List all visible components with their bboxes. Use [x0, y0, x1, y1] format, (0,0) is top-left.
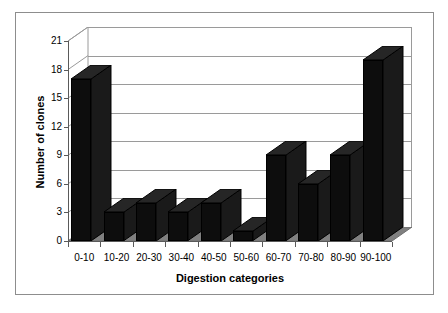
x-tick-mark-6	[295, 242, 296, 247]
plot-area: 036912151821 0-1010-2020-3030-4040-5050-…	[0, 0, 448, 313]
bar-0-10	[71, 79, 91, 241]
y-tick-label-0: 0	[40, 236, 62, 246]
x-tick-mark-4	[230, 242, 231, 247]
x-tick-mark-2	[165, 242, 166, 247]
x-tick-label-10-20: 10-20	[100, 252, 132, 263]
x-axis-title: Digestion categories	[68, 272, 392, 284]
y-tick-mark-15	[64, 98, 69, 99]
x-tick-mark-1	[133, 242, 134, 247]
y-axis-title: Number of clones	[34, 62, 46, 222]
x-tick-label-40-50: 40-50	[198, 252, 230, 263]
bar-90-100	[363, 60, 383, 241]
bar-20-30	[136, 203, 156, 241]
y-tick-label-21: 21	[40, 36, 62, 46]
gridline-21	[88, 27, 412, 28]
bar-70-80	[298, 184, 318, 241]
y-tick-mark-18	[64, 70, 69, 71]
y-tick-mark-12	[64, 127, 69, 128]
x-tick-mark-0	[100, 242, 101, 247]
bar-30-40	[168, 212, 188, 241]
bar-60-70	[266, 155, 286, 241]
x-tick-label-0-10: 0-10	[68, 252, 100, 263]
x-tick-mark-origin	[68, 242, 69, 247]
x-tick-label-70-80: 70-80	[295, 252, 327, 263]
y-tick-mark-6	[64, 184, 69, 185]
y-tick-mark-9	[64, 155, 69, 156]
y-tick-mark-3	[64, 212, 69, 213]
x-tick-mark-5	[262, 242, 263, 247]
bar-50-60	[233, 231, 253, 241]
bar-80-90	[330, 155, 350, 241]
bar-40-50	[201, 203, 221, 241]
bar-10-20	[104, 212, 124, 241]
bar-side-face	[383, 46, 405, 243]
chart-figure: 036912151821 0-1010-2020-3030-4040-5050-…	[0, 0, 448, 313]
x-tick-label-90-100: 90-100	[360, 252, 392, 263]
x-tick-label-60-70: 60-70	[262, 252, 294, 263]
x-tick-mark-8	[360, 242, 361, 247]
x-tick-mark-7	[327, 242, 328, 247]
x-tick-mark-9	[392, 242, 393, 247]
x-tick-label-80-90: 80-90	[327, 252, 359, 263]
x-tick-mark-3	[198, 242, 199, 247]
x-tick-label-30-40: 30-40	[165, 252, 197, 263]
y-tick-mark-21	[64, 41, 69, 42]
x-tick-label-50-60: 50-60	[230, 252, 262, 263]
x-tick-label-20-30: 20-30	[133, 252, 165, 263]
